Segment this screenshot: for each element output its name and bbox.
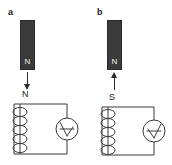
panel-a: a N N	[0, 0, 86, 165]
panel-b: b N S	[86, 0, 172, 165]
panel-b-circuit	[86, 0, 172, 165]
panel-a-circuit	[0, 0, 86, 165]
electromagnetic-induction-figure: a N N b	[0, 0, 172, 165]
